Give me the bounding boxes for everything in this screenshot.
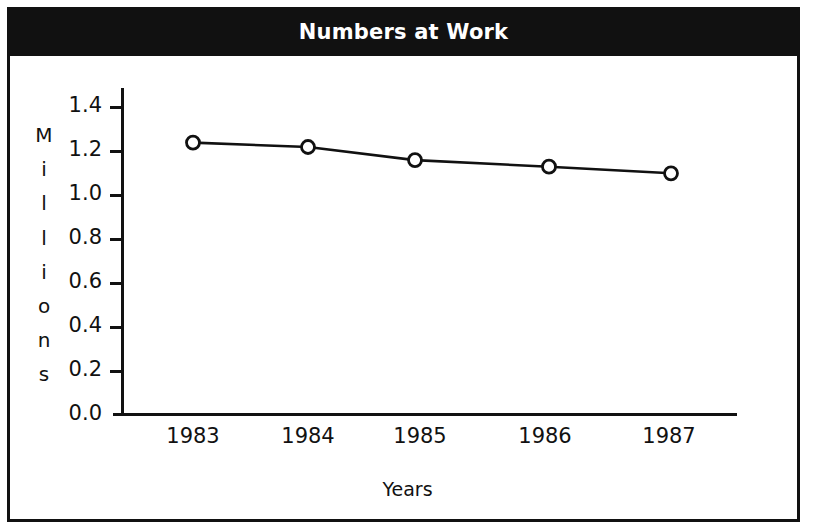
data-point-marker: [543, 160, 556, 173]
data-point-marker: [187, 136, 200, 149]
chart-figure: Numbers at Work 1.4 1.2 1.0 0.8 0.6 0.4: [0, 0, 815, 531]
x-axis-title: Years: [0, 478, 815, 500]
plot-area: 1.4 1.2 1.0 0.8 0.6 0.4 0.2 0.0 M i l l …: [0, 0, 815, 531]
x-tick-label: 1983: [138, 424, 248, 448]
data-series-line: [0, 0, 815, 531]
x-tick-label: 1984: [253, 424, 363, 448]
data-point-marker: [302, 141, 315, 154]
data-point-marker: [409, 154, 422, 167]
x-tick-label: 1986: [490, 424, 600, 448]
data-point-marker: [665, 167, 678, 180]
x-tick-label: 1987: [614, 424, 724, 448]
x-tick-label: 1985: [365, 424, 475, 448]
